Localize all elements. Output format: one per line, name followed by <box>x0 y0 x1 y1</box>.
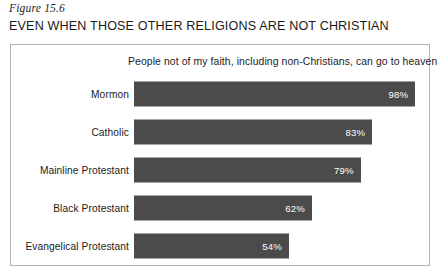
bar-value-label: 98% <box>388 89 408 100</box>
chart-frame: People not of my faith, including non-Ch… <box>10 44 430 266</box>
bar-track: 62% <box>134 196 421 221</box>
figure-caption: Figure 15.6 <box>9 2 65 14</box>
category-label: Evangelical Protestant <box>25 241 129 252</box>
bar: 83% <box>134 120 372 145</box>
bar-value-label: 79% <box>334 165 354 176</box>
bar-track: 54% <box>134 234 421 259</box>
bar-row: Catholic 83% <box>11 113 431 151</box>
bar: 62% <box>134 196 312 221</box>
bar-track: 98% <box>134 82 421 107</box>
category-label: Black Protestant <box>53 203 129 214</box>
bar: 54% <box>134 234 289 259</box>
bar-row: Mormon 98% <box>11 75 431 113</box>
bar-track: 83% <box>134 120 421 145</box>
category-label: Mainline Protestant <box>40 165 129 176</box>
category-label: Catholic <box>91 127 129 138</box>
bar-row: Evangelical Protestant 54% <box>11 227 431 265</box>
bar: 79% <box>134 158 361 183</box>
category-label: Mormon <box>91 89 129 100</box>
bar-value-label: 62% <box>285 203 305 214</box>
plot-area: Mormon 98% Catholic 83% Mainline Protest… <box>11 75 431 265</box>
bar-row: Mainline Protestant 79% <box>11 151 431 189</box>
bar-value-label: 54% <box>262 241 282 252</box>
bar-row: Black Protestant 62% <box>11 189 431 227</box>
bar: 98% <box>134 82 415 107</box>
bar-track: 79% <box>134 158 421 183</box>
chart-title: People not of my faith, including non-Ch… <box>128 56 437 67</box>
bar-value-label: 83% <box>345 127 365 138</box>
figure-heading: EVEN WHEN THOSE OTHER RELIGIONS ARE NOT … <box>9 19 389 33</box>
